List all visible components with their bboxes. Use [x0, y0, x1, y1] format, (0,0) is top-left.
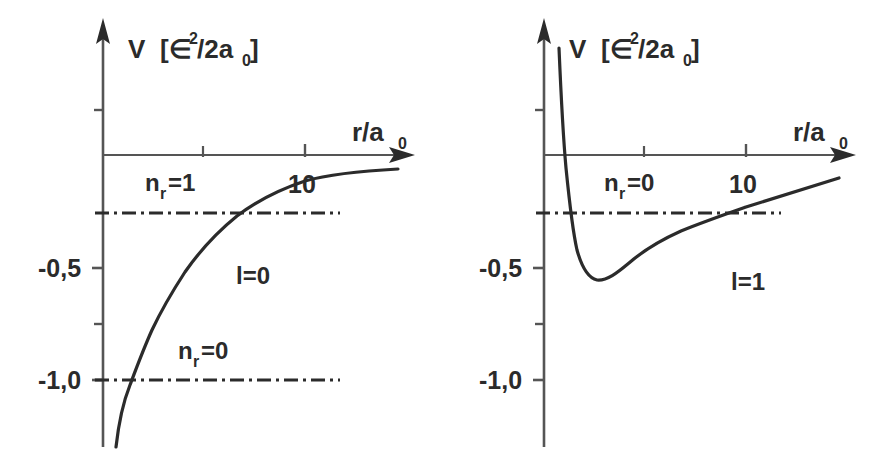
- y-axis-title-V: V: [569, 34, 587, 64]
- y-axis-title-denominator: /2a: [638, 34, 675, 64]
- quantum-number-label-l: l=1: [731, 268, 765, 295]
- potential-curve-l1: [559, 48, 839, 280]
- plot-left: V [∈ 2 /2a 0 ] r/a 0 -0,5 -1,0 10 n r: [0, 0, 441, 457]
- energy-level-nr0-label: n r =0: [604, 169, 654, 202]
- quantum-number-label-l0: l=0: [236, 262, 270, 290]
- y-tick-label-neg05: -0,5: [479, 254, 522, 282]
- x-axis-title: r/a 0: [352, 117, 407, 152]
- y-axis-title-bracket-open: [∈: [160, 34, 192, 64]
- y-tick-label-neg05: -0,5: [38, 254, 81, 282]
- nr0-label-eq: =0: [201, 337, 228, 364]
- figure-container: V [∈ 2 /2a 0 ] r/a 0 -0,5 -1,0 10 n r: [0, 0, 882, 457]
- nr0-label-n: n: [604, 169, 619, 196]
- nr1-label-eq: =1: [168, 169, 195, 196]
- panel-l1: V [∈ 2 /2a 0 ] r/a 0 -0,5 -1,0 10 n r: [441, 0, 882, 457]
- plot-right: V [∈ 2 /2a 0 ] r/a 0 -0,5 -1,0 10 n r: [441, 0, 882, 457]
- y-axis-title-V: V: [128, 34, 146, 64]
- nr0-label-n: n: [178, 337, 193, 364]
- y-axis-title: V [∈ 2 /2a 0 ]: [569, 30, 700, 69]
- y-axis-title-bracket-open: [∈: [601, 34, 633, 64]
- x-axis-title: r/a 0: [793, 117, 848, 152]
- x-axis-title-subscript: 0: [839, 135, 848, 152]
- energy-level-nr1-label: n r =1: [145, 169, 195, 202]
- y-tick-label-neg10: -1,0: [479, 366, 522, 394]
- panel-l0: V [∈ 2 /2a 0 ] r/a 0 -0,5 -1,0 10 n r: [0, 0, 441, 457]
- x-axis-title-main: r/a: [793, 117, 825, 147]
- x-axis-title-main: r/a: [352, 117, 384, 147]
- nr1-label-sub: r: [160, 185, 166, 202]
- energy-level-nr0-label: n r =0: [178, 337, 228, 370]
- y-axis-title-denominator: /2a: [197, 34, 234, 64]
- nr0-label-sub: r: [619, 185, 625, 202]
- nr0-label-sub: r: [193, 353, 199, 370]
- y-axis-title-bracket-close: ]: [691, 34, 700, 64]
- y-tick-label-neg10: -1,0: [38, 366, 81, 394]
- x-tick-label-10: 10: [729, 170, 757, 198]
- nr1-label-n: n: [145, 169, 160, 196]
- potential-curve-l0: [116, 169, 398, 447]
- y-axis-title: V [∈ 2 /2a 0 ]: [128, 30, 259, 69]
- x-axis-title-subscript: 0: [398, 135, 407, 152]
- y-axis-title-bracket-close: ]: [250, 34, 259, 64]
- nr0-label-eq: =0: [627, 169, 654, 196]
